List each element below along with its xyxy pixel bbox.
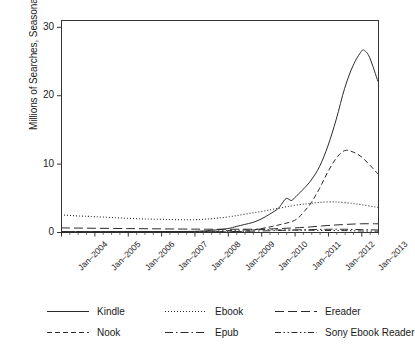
x-tick-label: Jan–2005	[109, 239, 142, 272]
x-tick-label: Jan–2009	[243, 239, 276, 272]
y-tick-label: 10	[43, 159, 54, 169]
legend-item-ebook[interactable]: Ebook	[164, 301, 243, 321]
legend-item-epub[interactable]: Epub	[164, 322, 238, 342]
chart-legend: KindleEbookEreaderNookEpubSony Ebook Rea…	[46, 301, 391, 345]
x-tick-label: Jan–2004	[76, 239, 109, 272]
series-line-kindle	[61, 50, 378, 232]
legend-label: Nook	[97, 327, 120, 338]
legend-item-kindle[interactable]: Kindle	[46, 301, 125, 321]
x-tick-label: Jan–2006	[143, 239, 176, 272]
x-tick-label: Jan–2012	[343, 239, 376, 272]
legend-key-sony-ebook-reader	[274, 326, 318, 338]
legend-item-ereader[interactable]: Ereader	[274, 301, 361, 321]
legend-label: Kindle	[97, 306, 125, 317]
legend-label: Epub	[215, 327, 238, 338]
x-tick-label: Jan–2008	[209, 239, 242, 272]
legend-key-kindle	[46, 305, 90, 317]
x-tick-label: Jan–2013	[376, 239, 409, 272]
y-tick-label: 20	[43, 90, 54, 100]
x-tick-label: Jan–2010	[276, 239, 309, 272]
legend-item-nook[interactable]: Nook	[46, 322, 120, 342]
legend-label: Ereader	[325, 306, 361, 317]
y-tick-label: 0	[48, 227, 54, 237]
legend-item-sony-ebook-reader[interactable]: Sony Ebook Reader	[274, 322, 415, 342]
plot-svg	[61, 20, 379, 233]
y-tick-label: 30	[43, 22, 54, 32]
legend-key-epub	[164, 326, 208, 338]
legend-key-nook	[46, 326, 90, 338]
legend-label: Sony Ebook Reader	[325, 327, 415, 338]
plot-frame	[62, 21, 379, 233]
y-axis-tick-labels: 0102030	[26, 0, 54, 349]
legend-key-ebook	[164, 305, 208, 317]
plot-area	[61, 20, 378, 232]
legend-key-ereader	[274, 305, 318, 317]
x-tick-label: Jan–2007	[176, 239, 209, 272]
series-line-ereader	[61, 224, 378, 230]
series-line-nook	[61, 150, 378, 232]
series-line-ebook	[61, 202, 378, 220]
legend-label: Ebook	[215, 306, 243, 317]
x-tick-label: Jan–2011	[309, 239, 342, 272]
